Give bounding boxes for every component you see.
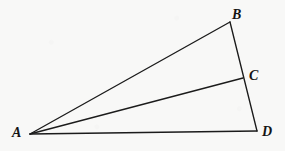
geometry-canvas <box>0 0 285 151</box>
geometry-figure: A B C D <box>0 0 285 151</box>
segment-ab <box>30 22 230 134</box>
segment-ac <box>30 78 243 134</box>
vertex-label-a: A <box>12 126 21 140</box>
segment-ad <box>30 131 257 134</box>
vertex-label-c: C <box>249 69 258 83</box>
vertex-label-d: D <box>262 125 272 139</box>
vertex-label-b: B <box>232 8 241 22</box>
